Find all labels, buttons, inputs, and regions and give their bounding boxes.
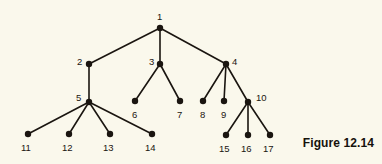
tree-node-dot — [223, 61, 229, 67]
tree-node-dot — [221, 98, 227, 104]
tree-node-label: 8 — [200, 110, 205, 120]
tree-node-dot — [245, 132, 251, 138]
tree-node-dot — [132, 98, 138, 104]
tree-node-dot — [157, 61, 163, 67]
tree-node-dot — [66, 131, 72, 137]
tree-node-label: 14 — [145, 143, 156, 153]
tree-node-label: 5 — [76, 93, 81, 103]
tree-edge — [224, 64, 226, 101]
tree-node-dot — [267, 132, 273, 138]
tree-node-dot — [86, 61, 92, 67]
tree-node-label: 4 — [232, 57, 237, 67]
tree-node-dot — [245, 99, 251, 105]
tree-node-dot — [107, 131, 113, 137]
tree-node-dot — [157, 25, 163, 31]
tree-edge — [248, 102, 270, 135]
tree-edge — [160, 64, 180, 101]
tree-node-label: 3 — [149, 57, 154, 67]
tree-node-label: 12 — [62, 143, 73, 153]
tree-edge-layer — [28, 28, 270, 135]
figure-tree-diagram: 1234567891011121314151617 Figure 12.14 — [0, 0, 382, 164]
tree-node-dot — [25, 131, 31, 137]
tree-node-label: 6 — [132, 110, 137, 120]
tree-node-label: 7 — [177, 110, 182, 120]
tree-node-label: 9 — [221, 110, 226, 120]
tree-node-label: 13 — [103, 143, 114, 153]
tree-node-label: 15 — [219, 144, 230, 154]
figure-caption: Figure 12.14 — [303, 136, 374, 150]
tree-node-dot — [86, 99, 92, 105]
tree-node-dot — [223, 132, 229, 138]
tree-edge — [89, 102, 152, 134]
tree-node-label: 1 — [157, 12, 162, 22]
tree-node-label: 17 — [263, 144, 274, 154]
tree-edge — [203, 64, 226, 101]
tree-node-label: 2 — [77, 57, 82, 67]
tree-edge — [160, 28, 226, 64]
tree-node-label: 16 — [241, 144, 252, 154]
tree-edge — [226, 64, 248, 102]
tree-node-label: 11 — [21, 143, 31, 153]
tree-node-dot — [177, 98, 183, 104]
tree-edge — [226, 102, 248, 135]
tree-node-dot — [200, 98, 206, 104]
tree-node-label: 10 — [256, 93, 267, 103]
tree-node-dot — [149, 131, 155, 137]
tree-edge — [135, 64, 160, 101]
